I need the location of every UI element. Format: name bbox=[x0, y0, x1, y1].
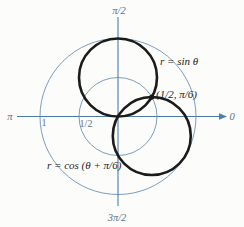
intersection-dot bbox=[149, 94, 154, 99]
curve-label-r-cos: r = cos (θ + π/6) bbox=[47, 159, 122, 172]
polar-figure: π/2 0 π 3π/2 1 1/2 r = sin θ (1/2, π/6) … bbox=[0, 0, 244, 227]
theta-axis-label-top: π/2 bbox=[112, 5, 126, 16]
curve-label-r-sin-theta: r = sin θ bbox=[160, 55, 199, 67]
radius-tick-half: 1/2 bbox=[80, 118, 93, 129]
label-layer: π/2 0 π 3π/2 1 1/2 r = sin θ (1/2, π/6) … bbox=[7, 5, 235, 224]
radius-tick-1: 1 bbox=[42, 117, 47, 128]
theta-axis-label-left: π bbox=[7, 111, 13, 122]
intersection-point-label: (1/2, π/6) bbox=[156, 88, 197, 101]
theta-axis-label-bottom: 3π/2 bbox=[107, 212, 127, 223]
theta-axis-label-right: 0 bbox=[229, 111, 235, 122]
polar-plot: π/2 0 π 3π/2 1 1/2 r = sin θ (1/2, π/6) … bbox=[0, 0, 244, 227]
axis-arrow-icon bbox=[219, 113, 227, 119]
